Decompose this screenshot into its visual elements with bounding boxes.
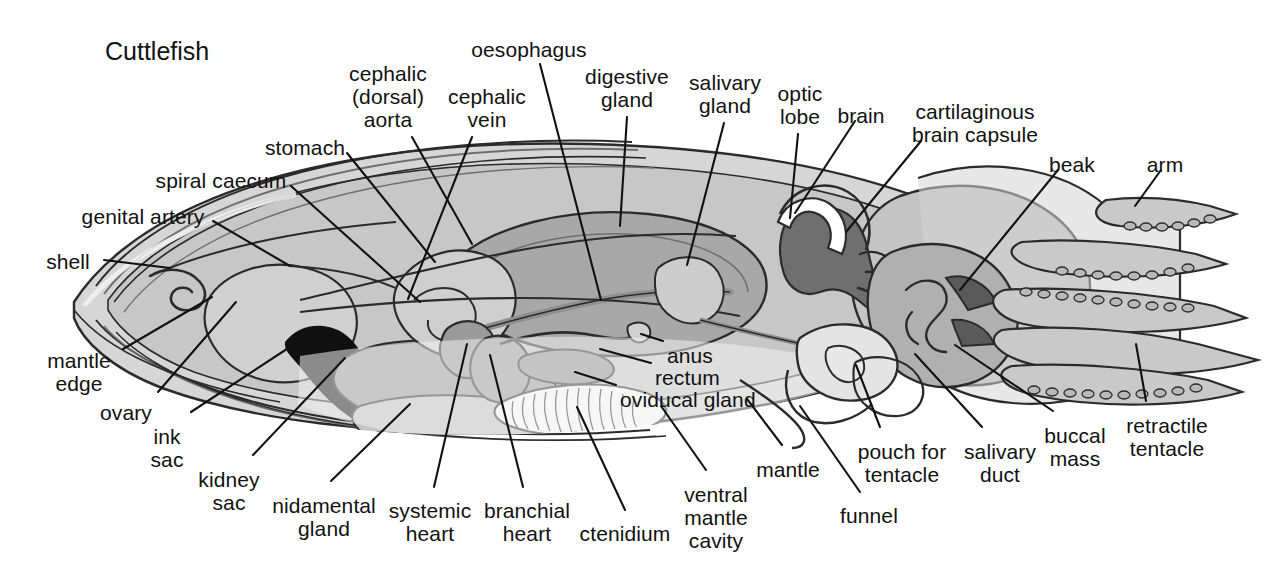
label-arm: arm [1147, 153, 1183, 176]
label-mantle-edge: mantle edge [47, 349, 111, 395]
label-pouch-for-tentacle: pouch for tentacle [858, 440, 946, 486]
label-digestive-gland: digestive gland [585, 65, 669, 111]
label-cephalic-vein: cephalic vein [448, 85, 526, 131]
label-beak: beak [1049, 153, 1095, 176]
label-cephalic-dorsal-aorta: cephalic (dorsal) aorta [349, 62, 427, 131]
label-brain: brain [837, 104, 884, 127]
label-ventral-mantle-cavity: ventral mantle cavity [684, 483, 748, 552]
label-oesophagus: oesophagus [471, 38, 586, 61]
label-systemic-heart: systemic heart [389, 499, 471, 545]
label-shell: shell [46, 250, 90, 273]
label-ink-sac: ink sac [151, 425, 184, 471]
cuttlefish-anatomy-figure: oesophaguscephalic (dorsal) aortacephali… [0, 0, 1276, 572]
label-ovary: ovary [100, 401, 152, 424]
label-ctenidium: ctenidium [580, 522, 671, 545]
arm-1 [1096, 198, 1236, 231]
label-genital-artery: genital artery [82, 205, 205, 228]
label-nidamental-gland: nidamental gland [272, 494, 376, 540]
label-cartilaginous-brain-capsule: cartilaginous brain capsule [912, 100, 1038, 146]
label-branchial-heart: branchial heart [484, 499, 570, 545]
label-optic-lobe: optic lobe [778, 82, 823, 128]
label-retractile-tentacle: retractile tentacle [1126, 414, 1208, 460]
label-mantle: mantle [756, 458, 820, 481]
label-salivary-duct: salivary duct [964, 440, 1036, 486]
label-funnel: funnel [840, 504, 898, 527]
label-stomach: stomach [265, 136, 345, 159]
label-kidney-sac: kidney sac [198, 468, 259, 514]
label-spiral-caecum: spiral caecum [156, 169, 287, 192]
label-buccal-mass: buccal mass [1044, 424, 1105, 470]
label-salivary-gland: salivary gland [689, 71, 761, 117]
arm-3 [993, 288, 1246, 332]
label-oviducal-gland: oviducal gland [620, 388, 756, 411]
page-title: Cuttlefish [105, 38, 209, 65]
label-rectum: rectum [655, 366, 720, 389]
label-anus: anus [667, 344, 713, 367]
